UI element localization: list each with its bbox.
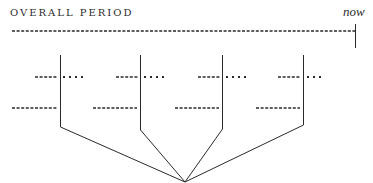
period-diagram <box>0 0 373 183</box>
branch-4 <box>256 55 321 125</box>
convergence-lines <box>61 125 304 182</box>
branch-1 <box>12 55 83 127</box>
branch-3 <box>175 55 246 127</box>
branch-2 <box>93 55 164 128</box>
